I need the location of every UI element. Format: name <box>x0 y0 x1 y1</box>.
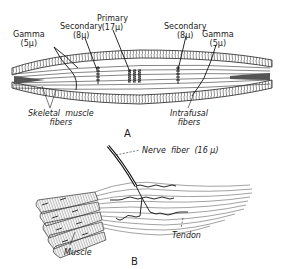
label-skeletal-muscle-fibers: Skeletal muscle fibers <box>28 109 94 127</box>
label-intrafusal-fibers: Intrafusal fibers <box>170 109 208 127</box>
label-gamma-left: Gamma (5μ) <box>13 30 45 48</box>
label-intrafusal-line2: fibers <box>170 118 208 127</box>
label-skeletal-line1: Skeletal muscle <box>28 109 94 118</box>
panel-a-letter: A <box>124 128 131 139</box>
label-secondary-left-size: (8μ) <box>60 31 102 40</box>
label-muscle: Muscle <box>64 248 92 257</box>
label-skeletal-line2: fibers <box>28 118 94 127</box>
label-tendon: Tendon <box>172 231 201 240</box>
label-nerve-fiber: Nerve fiber (16 μ) <box>142 146 219 155</box>
label-secondary-right: Secondary (8μ) <box>164 22 206 40</box>
label-intrafusal-line1: Intrafusal <box>170 109 208 118</box>
label-secondary-left: Secondary (8μ) <box>60 22 102 40</box>
panel-b-muscle-tendon <box>36 146 252 258</box>
label-gamma-right: Gamma (5μ) <box>202 30 234 48</box>
label-gamma-right-name: Gamma <box>202 30 234 39</box>
label-gamma-left-name: Gamma <box>13 30 45 39</box>
label-gamma-left-size: (5μ) <box>13 39 45 48</box>
label-gamma-right-size: (5μ) <box>202 39 234 48</box>
panel-b-letter: B <box>131 256 138 267</box>
label-secondary-right-name: Secondary <box>164 22 206 31</box>
label-secondary-left-name: Secondary <box>60 22 102 31</box>
label-secondary-right-size: (8μ) <box>164 31 206 40</box>
